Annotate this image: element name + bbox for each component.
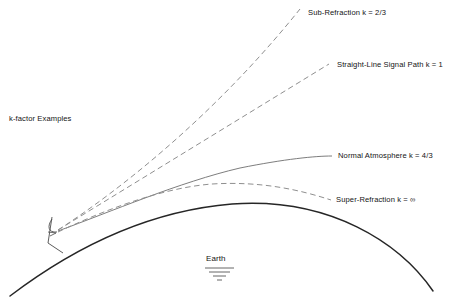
earth-ground-symbol xyxy=(205,268,234,280)
elevation-angle-arc xyxy=(49,219,57,232)
label-sub-refraction: Sub-Refraction k = 2/3 xyxy=(308,9,386,17)
label-straight-line-signal-path: Straight-Line Signal Path k = 1 xyxy=(337,61,443,69)
diagram-canvas xyxy=(0,0,473,299)
label-super-refraction: Super-Refraction k = ∞ xyxy=(336,196,416,204)
super-refraction-ray xyxy=(58,183,331,232)
label-earth: Earth xyxy=(206,255,226,263)
k-factor-diagram: Sub-Refraction k = 2/3 Straight-Line Sig… xyxy=(0,0,473,299)
earth-surface-curve xyxy=(10,203,433,296)
normal-atmosphere-ray xyxy=(58,156,332,231)
label-normal-atmosphere: Normal Atmosphere k = 4/3 xyxy=(338,152,433,160)
diagram-title: k-factor Examples xyxy=(9,115,71,123)
sub-refraction-ray xyxy=(58,9,300,230)
